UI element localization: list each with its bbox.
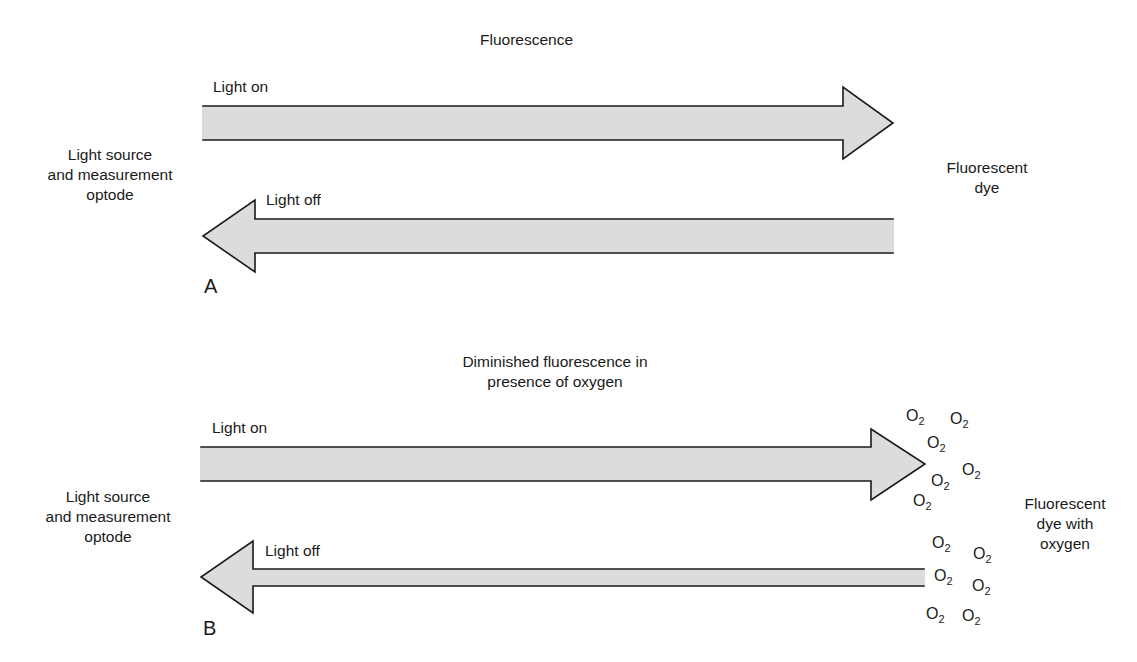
oxygen-molecule: O2 [972, 577, 991, 595]
panel-b-light-on-arrow [201, 429, 925, 500]
oxygen-molecule: O2 [926, 605, 945, 623]
oxygen-molecule: O2 [962, 607, 981, 625]
right-label-line: oxygen [1000, 534, 1130, 554]
right-label-line: dye [922, 178, 1052, 198]
oxygen-molecule: O2 [973, 545, 992, 563]
left-label-line: Light source [20, 487, 196, 507]
title-line: presence of oxygen [410, 372, 700, 392]
oxygen-molecule: O2 [932, 534, 951, 552]
oxygen-molecule: O2 [931, 472, 950, 490]
arrows-layer [0, 0, 1137, 662]
panel-b-right-label: Fluorescent dye with oxygen [1000, 494, 1130, 554]
oxygen-molecule: O2 [950, 410, 969, 428]
left-label-line: and measurement [20, 507, 196, 527]
oxygen-molecule: O2 [927, 434, 946, 452]
panel-a-light-on-arrow [203, 87, 893, 159]
oxygen-molecule: O2 [913, 492, 932, 510]
right-label-line: dye with [1000, 514, 1130, 534]
left-label-line: optode [22, 185, 198, 205]
panel-b-letter: B [203, 617, 216, 639]
panel-a-light-on-label: Light on [213, 77, 268, 97]
right-label-line: Fluorescent [922, 158, 1052, 178]
oxygen-molecule: O2 [962, 461, 981, 479]
oxygen-molecule: O2 [934, 567, 953, 585]
left-label-line: Light source [22, 145, 198, 165]
panel-b-left-label: Light source and measurement optode [20, 487, 196, 547]
oxygen-molecule: O2 [906, 407, 925, 425]
right-label-line: Fluorescent [1000, 494, 1130, 514]
panel-a-right-label: Fluorescent dye [922, 158, 1052, 198]
left-label-line: optode [20, 527, 196, 547]
title-line: Diminished fluorescence in [410, 352, 700, 372]
panel-b-title: Diminished fluorescence in presence of o… [410, 352, 700, 392]
panel-a-light-off-label: Light off [266, 190, 321, 210]
left-label-line: and measurement [22, 165, 198, 185]
panel-a-title: Fluorescence [480, 30, 573, 50]
panel-b-light-off-label: Light off [265, 541, 320, 561]
panel-a-left-label: Light source and measurement optode [22, 145, 198, 205]
panel-a-letter: A [204, 275, 217, 297]
panel-a-light-off-arrow [203, 200, 893, 272]
panel-b-light-on-label: Light on [212, 418, 267, 438]
